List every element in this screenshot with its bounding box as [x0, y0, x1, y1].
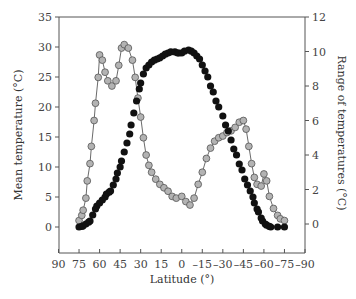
range-point — [245, 143, 252, 150]
mean-point — [121, 148, 128, 155]
y-left-tick-label: 35 — [38, 11, 52, 24]
range-point — [125, 45, 132, 52]
range-point — [240, 117, 247, 124]
x-tick-label: –30 — [213, 258, 233, 271]
range-point — [263, 177, 270, 184]
range-point — [207, 145, 214, 152]
mean-point — [130, 109, 137, 116]
x-tick-label: 60 — [93, 258, 107, 271]
x-axis-ticks: 9075604530150–15–30–45–60–75–90 — [52, 249, 315, 271]
y-right-tick-label: 8 — [312, 80, 319, 93]
range-point — [102, 69, 109, 76]
x-tick-label: 75 — [72, 258, 86, 271]
range-point — [82, 195, 89, 202]
y-left-tick-label: 5 — [45, 191, 52, 204]
y-left-tick-label: 10 — [38, 161, 52, 174]
x-tick-label: –60 — [254, 258, 274, 271]
x-tick-label: –15 — [193, 258, 213, 271]
x-tick-label: 0 — [178, 258, 185, 271]
range-point — [243, 126, 250, 133]
y-right-tick-label: 10 — [312, 46, 326, 59]
y-right-tick-label: 2 — [312, 184, 319, 197]
mean-point — [281, 223, 288, 230]
y-left-tick-label: 25 — [38, 71, 52, 84]
range-point — [129, 57, 136, 64]
y-right-tick-label: 12 — [312, 11, 326, 24]
mean-point — [112, 175, 119, 182]
range-point — [203, 155, 210, 162]
x-tick-label: 15 — [154, 258, 168, 271]
mean-point — [227, 136, 234, 143]
mean-point — [215, 103, 222, 110]
y-left-tick-label: 15 — [38, 131, 52, 144]
chart: 9075604530150–15–30–45–60–75–90 05101520… — [0, 0, 356, 299]
mean-point — [137, 79, 144, 86]
range-point — [195, 181, 202, 188]
range-point — [95, 74, 102, 81]
x-tick-label: –45 — [234, 258, 254, 271]
mean-point — [238, 166, 245, 173]
y-left-tick-label: 30 — [38, 41, 52, 54]
range-point — [92, 100, 99, 107]
range-point — [266, 193, 273, 200]
y-left-axis-title: Mean temperature (°C) — [12, 70, 25, 201]
range-point — [113, 77, 120, 84]
y-left-axis-ticks: 05101520253035 — [38, 11, 59, 234]
range-point — [145, 162, 152, 169]
range-point — [248, 160, 255, 167]
range-point — [115, 62, 122, 69]
mean-point — [204, 73, 211, 80]
range-point — [261, 171, 268, 178]
range-point — [99, 57, 106, 64]
x-axis-title: Latitude (°) — [150, 273, 214, 286]
y-right-axis-ticks: 024681012 — [305, 11, 326, 231]
mean-point — [249, 193, 256, 200]
range-point — [281, 217, 288, 224]
mean-point — [219, 112, 226, 119]
range-point — [140, 134, 147, 141]
mean-point — [267, 223, 274, 230]
y-right-axis-title: Range of temperatures (°C) — [335, 55, 348, 210]
x-tick-label: 45 — [113, 258, 127, 271]
range-point — [137, 114, 144, 121]
range-point — [258, 183, 265, 190]
mean-point — [233, 151, 240, 158]
range-point — [143, 152, 150, 159]
y-left-tick-label: 0 — [45, 221, 52, 234]
mean-point — [136, 85, 143, 92]
range-point — [199, 169, 206, 176]
mean-point — [123, 139, 130, 146]
range-point — [88, 143, 95, 150]
range-point — [87, 160, 94, 167]
y-right-tick-label: 0 — [312, 218, 319, 231]
y-right-tick-label: 4 — [312, 149, 319, 162]
mean-point — [133, 97, 140, 104]
mean-point — [225, 127, 232, 134]
mean-point — [118, 157, 125, 164]
range-point — [187, 202, 194, 209]
y-left-tick-label: 20 — [38, 101, 52, 114]
x-tick-label: –90 — [295, 258, 315, 271]
x-tick-label: 90 — [52, 258, 66, 271]
range-point — [251, 174, 258, 181]
range-point — [132, 74, 139, 81]
range-point — [84, 177, 91, 184]
mean-point — [127, 121, 134, 128]
range-point — [191, 195, 198, 202]
x-tick-label: –75 — [275, 258, 295, 271]
mean-point — [126, 130, 133, 137]
range-point — [91, 117, 98, 124]
range-point — [148, 169, 155, 176]
range-point — [80, 207, 87, 214]
mean-point — [274, 223, 281, 230]
range-point — [270, 205, 277, 212]
mean-point — [117, 163, 124, 170]
y-right-tick-label: 6 — [312, 115, 319, 128]
x-tick-label: 30 — [134, 258, 148, 271]
mean-point — [210, 88, 217, 95]
